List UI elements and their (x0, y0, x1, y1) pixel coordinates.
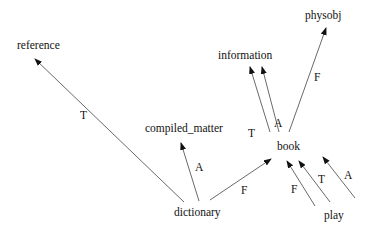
node-reference: reference (17, 39, 60, 51)
edge-label-book-physobj: F (314, 71, 320, 83)
edge-label-dictionary-book: F (241, 184, 247, 196)
edge-label-play-book-t: T (318, 173, 325, 185)
edge-play-book-t (299, 161, 330, 202)
node-physobj: physobj (305, 9, 341, 22)
edge-label-dictionary-reference: T (80, 109, 87, 121)
edge-label-play-book-a: A (344, 169, 353, 181)
node-compiled-matter: compiled_matter (145, 122, 223, 135)
node-play: play (324, 209, 344, 222)
node-information: information (218, 49, 273, 61)
edge-book-information-t (250, 67, 270, 132)
edge-book-physobj (289, 28, 326, 132)
edge-label-dictionary-compiled-matter: A (195, 161, 204, 173)
edge-label-book-information-a: A (274, 117, 283, 129)
node-dictionary: dictionary (174, 206, 221, 219)
node-book: book (277, 140, 300, 152)
diagram-canvas: T A F T A F F T A reference compiled_mat… (0, 0, 374, 229)
edge-label-play-book-f: F (291, 183, 297, 195)
edge-label-book-information-t: T (248, 127, 255, 139)
